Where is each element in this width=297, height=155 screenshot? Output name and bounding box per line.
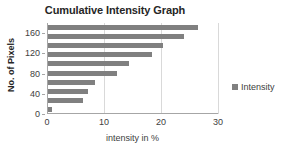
y-axis-tick-labels: 04080120160 — [0, 23, 45, 114]
bar — [48, 80, 95, 85]
cumulative-intensity-chart: Cumulative Intensity Graph No. of Pixels… — [0, 0, 297, 155]
bar — [48, 43, 163, 48]
y-tick-label: 80 — [30, 69, 40, 79]
y-tick-mark — [42, 94, 45, 95]
bar — [48, 34, 184, 39]
legend-label: Intensity — [241, 82, 275, 92]
y-tick-mark — [42, 53, 45, 54]
bar-fill — [48, 52, 152, 57]
bar-fill — [48, 98, 83, 103]
bar — [48, 107, 52, 112]
bar-series — [47, 23, 218, 114]
bar — [48, 52, 152, 57]
x-tick-label: 30 — [213, 117, 223, 127]
bar-fill — [48, 34, 184, 39]
bar — [48, 71, 117, 76]
y-tick-label: 0 — [35, 109, 40, 119]
gridline — [218, 23, 219, 114]
x-axis-line — [47, 113, 218, 114]
x-tick-label: 20 — [156, 117, 166, 127]
x-axis-tick-labels: 0102030 — [47, 116, 218, 130]
plot-area — [47, 23, 218, 114]
bar-fill — [48, 25, 198, 30]
bar-fill — [48, 80, 95, 85]
bar — [48, 98, 83, 103]
chart-legend: Intensity — [232, 82, 275, 92]
y-tick-label: 40 — [30, 89, 40, 99]
bar-fill — [48, 71, 117, 76]
x-tick-label: 10 — [99, 117, 109, 127]
legend-swatch-icon — [232, 84, 238, 90]
bar — [48, 89, 88, 94]
y-tick-mark — [42, 74, 45, 75]
chart-title: Cumulative Intensity Graph — [0, 4, 230, 16]
bar — [48, 61, 129, 66]
y-tick-label: 160 — [25, 28, 40, 38]
y-tick-label: 120 — [25, 48, 40, 58]
bar-fill — [48, 89, 88, 94]
y-tick-mark — [42, 33, 45, 34]
bar-fill — [48, 43, 163, 48]
y-axis-line — [47, 23, 48, 114]
x-tick-label: 0 — [44, 117, 49, 127]
bar-fill — [48, 61, 129, 66]
y-tick-mark — [42, 114, 45, 115]
bar — [48, 25, 198, 30]
x-axis-title: intensity in % — [47, 133, 218, 143]
bar-fill — [48, 107, 52, 112]
